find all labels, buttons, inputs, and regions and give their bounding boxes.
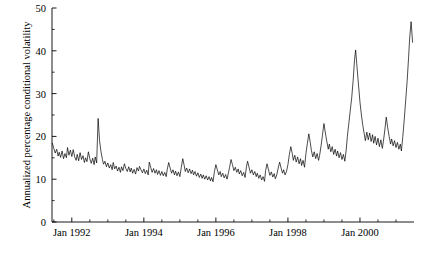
y-tick-label: 10 [20, 174, 46, 185]
y-tick-label: 50 [20, 3, 46, 14]
x-tick-label: Jan 2000 [341, 227, 379, 238]
x-tick-label: Jan 1996 [197, 227, 235, 238]
volatility-series-line [52, 22, 412, 182]
volatility-line-chart [0, 0, 421, 254]
figure-container: Annualized percentage conditional volati… [0, 0, 421, 254]
y-tick-label: 0 [20, 217, 46, 228]
x-tick-label: Jan 1992 [53, 227, 91, 238]
x-axis-ticks [54, 218, 396, 223]
axis-lines [52, 8, 414, 222]
x-tick-label: Jan 1994 [125, 227, 163, 238]
y-axis-ticks [52, 8, 57, 222]
y-tick-label: 30 [20, 88, 46, 99]
x-tick-label: Jan 1998 [269, 227, 307, 238]
y-tick-label: 40 [20, 45, 46, 56]
y-tick-label: 20 [20, 131, 46, 142]
